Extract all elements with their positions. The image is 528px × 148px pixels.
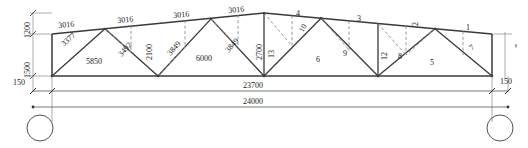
len-bottom-6000: 6000 (196, 55, 212, 63)
len-top-chord-3: 3016 (173, 10, 190, 20)
num-bottom-6: 6 (316, 56, 320, 64)
num-diagonal-8: 8 (398, 53, 402, 61)
num-top-chord-3: 3 (357, 15, 361, 23)
right-edge-equal-mark: = (513, 43, 521, 48)
dim-extension-lines (33, 76, 508, 122)
len-vertical-2100: 2100 (146, 44, 154, 60)
dim-1200: 1200 (24, 22, 32, 38)
witness-lines-left (30, 13, 52, 76)
support-right (487, 115, 513, 141)
dim-1500: 1500 (24, 62, 32, 78)
truss-geometry (0, 0, 528, 148)
right-end-dim (492, 32, 512, 78)
num-diagonal-9: 9 (343, 50, 347, 58)
len-top-chord-1: 3016 (58, 20, 75, 30)
num-top-chord-2: 2 (412, 22, 420, 26)
num-bottom-5: 5 (430, 59, 434, 67)
truss-dashed-members (105, 13, 463, 76)
num-vertical-13: 13 (268, 50, 276, 58)
num-top-chord-1: 1 (466, 24, 470, 32)
truss-drawing: 1200 1500 3016 3016 3016 3016 3377 3492 … (0, 0, 528, 148)
support-left (27, 115, 53, 141)
offset-right-150: 150 (500, 78, 512, 86)
span-dim-24000: 24000 (243, 98, 263, 106)
len-bottom-5850: 5850 (86, 58, 102, 66)
len-top-chord-2: 3016 (117, 15, 134, 25)
offset-left-150: 150 (13, 79, 25, 87)
num-top-chord-4: 4 (296, 10, 300, 18)
num-vertical-12: 12 (381, 52, 389, 60)
len-top-chord-4: 3016 (228, 5, 245, 15)
len-vertical-2700: 2700 (256, 44, 264, 60)
span-dim-23700: 23700 (243, 82, 263, 90)
